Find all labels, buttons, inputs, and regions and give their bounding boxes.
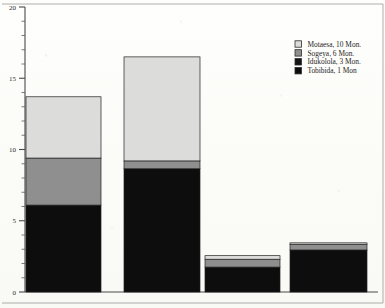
bar-segment [205, 256, 280, 260]
stacked-bar-chart: 20 15 10 5 0 Motaesa, 10 Mon.Sogeya, 6 M… [0, 0, 385, 308]
y-tick-label-20: 20 [9, 4, 17, 12]
bar-segment [205, 259, 280, 267]
legend-swatch [295, 41, 301, 47]
chart-legend: Motaesa, 10 Mon.Sogeya, 6 Mon.Idukolola,… [295, 40, 361, 76]
y-tick-label-15: 15 [9, 75, 17, 83]
legend-swatch [295, 59, 301, 65]
y-tick-label-5: 5 [13, 217, 17, 225]
legend-label: Idukolola, 3 Mon. [307, 57, 361, 66]
y-tick-label-10: 10 [9, 146, 17, 154]
bar-segment [124, 169, 200, 292]
bars-layer [26, 57, 367, 292]
legend-label: Motaesa, 10 Mon. [307, 40, 361, 49]
bar-group [26, 97, 101, 292]
bar-segment [26, 97, 101, 158]
bar-segment [124, 161, 200, 169]
bar-segment [124, 57, 200, 161]
bar-segment [205, 267, 280, 292]
bar-group [290, 243, 367, 292]
bar-segment [26, 158, 101, 205]
bar-group [124, 57, 200, 292]
legend-label: Sogeya, 6 Mon. [307, 49, 354, 58]
y-tick-label-0: 0 [13, 289, 17, 297]
bar-segment [290, 243, 367, 244]
bar-segment [290, 250, 367, 292]
bar-group [205, 256, 280, 292]
legend-swatch [295, 50, 301, 56]
legend-swatch [295, 68, 301, 74]
bar-segment [26, 205, 101, 292]
bar-segment [290, 244, 367, 250]
legend-label: Tobibida, 1 Mon [307, 66, 357, 75]
